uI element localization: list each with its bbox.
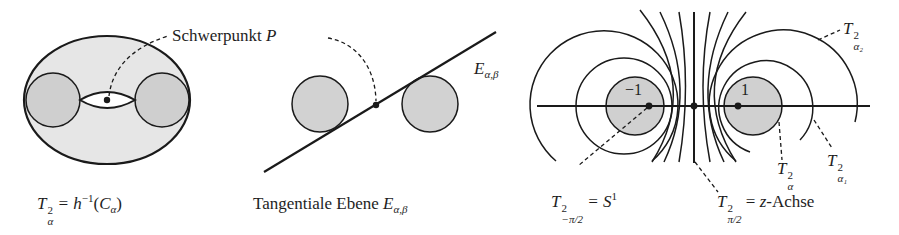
label-T-alpha: T2α [777,160,793,192]
leader-alpha2 [818,30,840,40]
label-T-alpha1: T2α₁ [827,152,847,184]
caption-z-axis: T2π/2 = z-Achse [717,193,814,225]
label-T-alpha2: T2α₂ [843,20,863,52]
panel-torus [24,36,190,164]
caption-s1-rhs-sup: 1 [611,190,617,202]
plane-left-disk [292,76,348,132]
panel-bipolar [530,10,870,192]
caption-torus: T2α = h−1(Cα) [37,195,122,227]
caption-plane: Tangentiale Ebene Eα,β [253,195,407,212]
plane-label-E: E [474,59,484,78]
label-minus-one: −1 [625,82,642,98]
label-T-alpha1-sub: α₁ [837,173,847,184]
caption-torus-paren-close: ) [116,194,122,213]
centroid-dot-1 [104,97,110,103]
caption-plane-text: Tangentiale Ebene [253,194,379,213]
caption-torus-T: T [37,194,46,213]
centroid-symbol: P [266,26,276,45]
panel-tangent-plane [264,32,496,172]
caption-s1-rhs: = S [587,192,611,211]
centroid-dot-2 [373,102,379,108]
label-T-alpha2-base: T [843,19,852,38]
caption-z-axis-text: -Achse [766,192,814,211]
label-T-alpha-base: T [777,159,786,178]
field-line-r1 [703,12,710,162]
label-T-alpha1-base: T [827,151,836,170]
leader-alpha1 [814,120,832,148]
centroid-label: Schwerpunkt P [172,27,276,44]
caption-torus-rhs: = h [58,194,82,213]
caption-torus-arg: C [99,194,110,213]
caption-z-axis-T: T [717,192,726,211]
label-T-alpha2-sub: α₂ [853,41,863,52]
caption-z-axis-sub: π/2 [727,214,741,225]
plane-label-sub: α,β [484,68,498,80]
caption-z-axis-eq: = [746,192,760,211]
caption-torus-sub: α [47,216,53,227]
torus-right-disk [135,73,189,127]
point-origin [691,103,698,110]
caption-plane-E: E [383,194,393,213]
caption-s1-sub: −π/2 [561,214,583,225]
leader-z-axis [695,162,718,192]
leader-alpha [779,122,782,160]
caption-s1-T: T [551,192,560,211]
torus-left-disk [26,73,80,127]
point-one [735,103,742,110]
centroid-label-text: Schwerpunkt [172,26,262,45]
caption-plane-sub: α,β [393,203,407,215]
caption-torus-rhs-sup: −1 [82,192,94,204]
label-T-alpha-sub: α [787,181,793,192]
caption-s1: T2−π/2 = S1 [551,193,617,225]
plane-label: Eα,β [474,60,498,77]
label-one: 1 [741,82,749,98]
